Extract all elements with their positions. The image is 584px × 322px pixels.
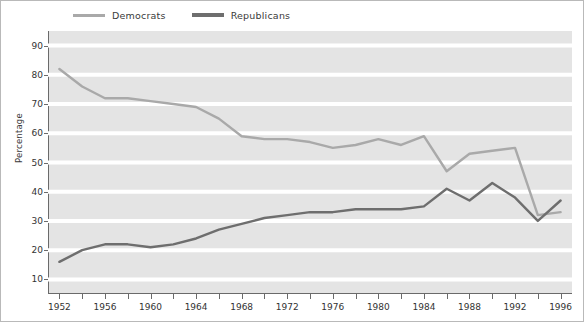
x-tick-mark-minor [128,294,129,299]
x-tick-mark [105,294,106,299]
x-tick-mark [378,294,379,299]
x-tick-label: 1988 [458,302,481,312]
x-tick-mark [287,294,288,299]
x-tick-mark-minor [492,294,493,299]
x-tick-mark-minor [264,294,265,299]
x-tick-label: 1992 [504,302,527,312]
y-tick-label: 10 [1,274,43,284]
x-tick-mark [469,294,470,299]
y-tick-label: 80 [1,70,43,80]
x-tick-label: 1960 [139,302,162,312]
x-tick-mark [515,294,516,299]
legend-swatch-republicans [192,13,224,17]
y-tick-label: 50 [1,158,43,168]
chart-lines [48,31,572,294]
legend-item-republicans: Republicans [192,10,291,21]
x-tick-label: 1952 [48,302,71,312]
legend-label-republicans: Republicans [231,10,291,21]
x-tick-mark [561,294,562,299]
x-tick-mark-minor [538,294,539,299]
legend-swatch-democrats [73,14,105,17]
legend-label-democrats: Democrats [112,10,166,21]
chart-legend: Democrats Republicans [73,7,290,23]
x-tick-mark [196,294,197,299]
x-tick-label: 1980 [367,302,390,312]
x-tick-label: 1996 [549,302,572,312]
x-tick-label: 1968 [230,302,253,312]
x-tick-mark-minor [447,294,448,299]
x-axis: 1952195619601964196819721976198019841988… [48,294,572,320]
x-tick-mark-minor [219,294,220,299]
x-tick-mark-minor [173,294,174,299]
x-tick-mark-minor [401,294,402,299]
legend-item-democrats: Democrats [73,10,166,21]
y-tick-label: 60 [1,128,43,138]
x-tick-label: 1976 [321,302,344,312]
x-tick-mark [59,294,60,299]
x-tick-label: 1972 [276,302,299,312]
x-tick-mark [424,294,425,299]
chart-figure: Democrats Republicans Percentage 1020304… [0,0,584,322]
y-tick-label: 30 [1,216,43,226]
y-axis-tick-labels: 102030405060708090 [1,31,43,294]
x-tick-mark-minor [82,294,83,299]
x-tick-mark [242,294,243,299]
x-tick-label: 1984 [412,302,435,312]
y-tick-label: 20 [1,245,43,255]
x-tick-mark [333,294,334,299]
x-tick-label: 1956 [94,302,117,312]
x-tick-mark [151,294,152,299]
x-tick-mark-minor [310,294,311,299]
x-tick-mark-minor [356,294,357,299]
x-tick-label: 1964 [185,302,208,312]
y-tick-label: 90 [1,41,43,51]
y-tick-label: 40 [1,187,43,197]
plot-area [48,31,572,294]
y-tick-label: 70 [1,99,43,109]
